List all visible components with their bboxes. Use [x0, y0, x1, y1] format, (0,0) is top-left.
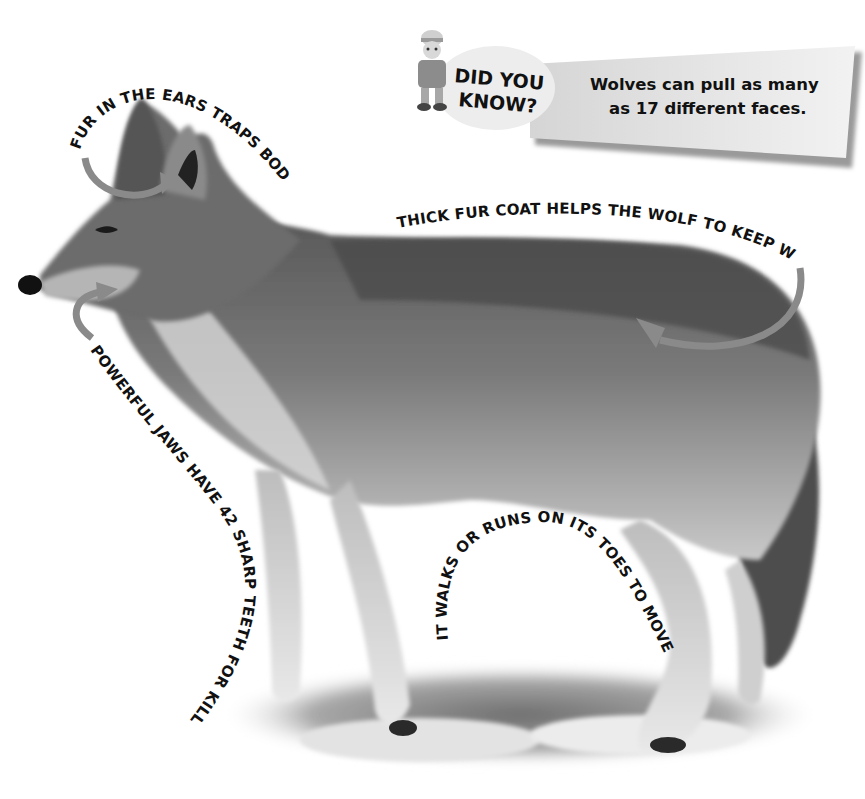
callout-body-line2: as 17 different faces.	[609, 99, 807, 118]
snow-ground	[220, 665, 820, 765]
did-you-know-callout: DID YOU KNOW? Wolves can pull as many as…	[417, 30, 862, 168]
callout-body-line1: Wolves can pull as many	[590, 75, 819, 94]
explorer-mascot-icon	[417, 30, 447, 111]
wolf-infographic: FUR IN THE EARS TRAPS BODY HEAT THICK FU…	[0, 0, 865, 799]
